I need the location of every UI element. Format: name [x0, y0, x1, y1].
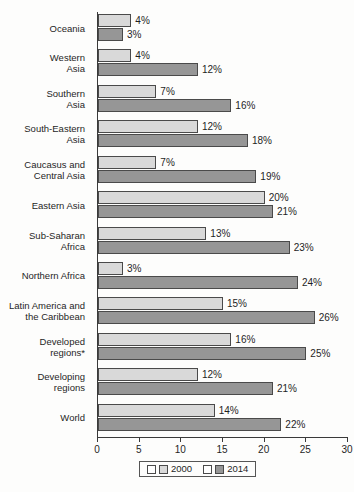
bar-2000	[98, 191, 265, 204]
bar-row: 23%	[98, 241, 347, 254]
category-label: Oceania	[0, 23, 85, 34]
bar-row: 21%	[98, 205, 347, 218]
bar-group: 7%16%	[98, 85, 347, 113]
category-label-line: Developed	[0, 336, 85, 347]
bar-value-label: 25%	[306, 347, 330, 360]
bar-value-label: 16%	[231, 333, 255, 346]
category-label: Sub-SaharanAfrica	[0, 230, 85, 252]
bar-row: 22%	[98, 418, 347, 431]
bar-2014	[98, 28, 123, 41]
bar-row: 19%	[98, 170, 347, 183]
bar-group: 20%21%	[98, 191, 347, 219]
bar-row: 13%	[98, 227, 347, 240]
bar-group: 3%24%	[98, 262, 347, 290]
bar-value-label: 4%	[131, 14, 149, 27]
bar-row: 7%	[98, 85, 347, 98]
category-label: WesternAsia	[0, 52, 85, 74]
bar-2000	[98, 368, 198, 381]
bar-2014	[98, 382, 273, 395]
category-label-line: Africa	[0, 241, 85, 252]
bar-row: 16%	[98, 333, 347, 346]
bar-value-label: 20%	[265, 191, 289, 204]
category-label-line: Latin America and	[0, 300, 85, 311]
bar-row: 14%	[98, 404, 347, 417]
bar-group: 13%23%	[98, 227, 347, 255]
bar-row: 25%	[98, 347, 347, 360]
bar-value-label: 21%	[273, 205, 297, 218]
category-label: SouthernAsia	[0, 88, 85, 110]
legend-item-2014: 2014	[203, 464, 248, 474]
bar-2014	[98, 134, 248, 147]
category-label: Eastern Asia	[0, 200, 85, 211]
bar-value-label: 3%	[123, 262, 141, 275]
legend-label: 2014	[227, 464, 248, 474]
bar-value-label: 7%	[156, 156, 174, 169]
x-tick	[139, 437, 140, 442]
x-tick	[180, 437, 181, 442]
category-label-line: regions	[0, 382, 85, 393]
bar-value-label: 12%	[198, 63, 222, 76]
bar-2014	[98, 99, 231, 112]
bar-value-label: 3%	[123, 28, 141, 41]
bar-2000	[98, 49, 131, 62]
bar-row: 26%	[98, 311, 347, 324]
legend-label: 2000	[171, 464, 192, 474]
bar-value-label: 23%	[290, 241, 314, 254]
bar-row: 20%	[98, 191, 347, 204]
bar-row: 7%	[98, 156, 347, 169]
category-label-line: regions*	[0, 347, 85, 358]
category-label-line: Oceania	[0, 23, 85, 34]
bar-value-label: 21%	[273, 382, 297, 395]
bar-row: 16%	[98, 99, 347, 112]
bar-value-label: 12%	[198, 120, 222, 133]
bar-2014	[98, 170, 256, 183]
category-label: Caucasus andCentral Asia	[0, 159, 85, 181]
bar-value-label: 7%	[156, 85, 174, 98]
bar-2014	[98, 205, 273, 218]
bar-2000	[98, 404, 215, 417]
category-label-line: Central Asia	[0, 170, 85, 181]
bar-group: 16%25%	[98, 333, 347, 361]
category-label: World	[0, 412, 85, 423]
category-label-line: Northern Africa	[0, 270, 85, 281]
bar-value-label: 19%	[256, 170, 280, 183]
category-label-line: Asia	[0, 99, 85, 110]
category-label: South-EasternAsia	[0, 123, 85, 145]
category-label-line: Developing	[0, 371, 85, 382]
bar-group: 12%21%	[98, 368, 347, 396]
bar-value-label: 16%	[231, 99, 255, 112]
category-label-line: Southern	[0, 88, 85, 99]
x-tick-label: 0	[85, 444, 109, 455]
bar-row: 12%	[98, 63, 347, 76]
bar-2000	[98, 120, 198, 133]
bar-2000	[98, 85, 156, 98]
category-label-line: World	[0, 412, 85, 423]
category-label-line: Asia	[0, 63, 85, 74]
bar-group: 14%22%	[98, 404, 347, 432]
x-tick-label: 20	[252, 444, 276, 455]
chart-legend: 20002014	[139, 461, 256, 477]
bar-2000	[98, 227, 206, 240]
legend-swatch-outline	[203, 465, 212, 474]
category-label-line: Sub-Saharan	[0, 230, 85, 241]
bar-chart-figure: 4%3%4%12%7%16%12%18%7%19%20%21%13%23%3%2…	[0, 0, 354, 492]
x-tick-label: 5	[127, 444, 151, 455]
x-tick-label: 15	[210, 444, 234, 455]
bar-2014	[98, 276, 298, 289]
bar-row: 3%	[98, 262, 347, 275]
legend-swatch-2000	[159, 465, 168, 474]
bar-2000	[98, 14, 131, 27]
x-tick	[97, 437, 98, 442]
bar-2000	[98, 333, 231, 346]
legend-item-2000: 2000	[147, 464, 192, 474]
bar-value-label: 4%	[131, 49, 149, 62]
bar-2000	[98, 262, 123, 275]
category-label: Northern Africa	[0, 270, 85, 281]
bar-value-label: 22%	[281, 418, 305, 431]
legend-swatch-outline	[147, 465, 156, 474]
bar-2000	[98, 156, 156, 169]
bar-row: 18%	[98, 134, 347, 147]
x-tick-label: 25	[293, 444, 317, 455]
x-tick	[222, 437, 223, 442]
bar-row: 3%	[98, 28, 347, 41]
